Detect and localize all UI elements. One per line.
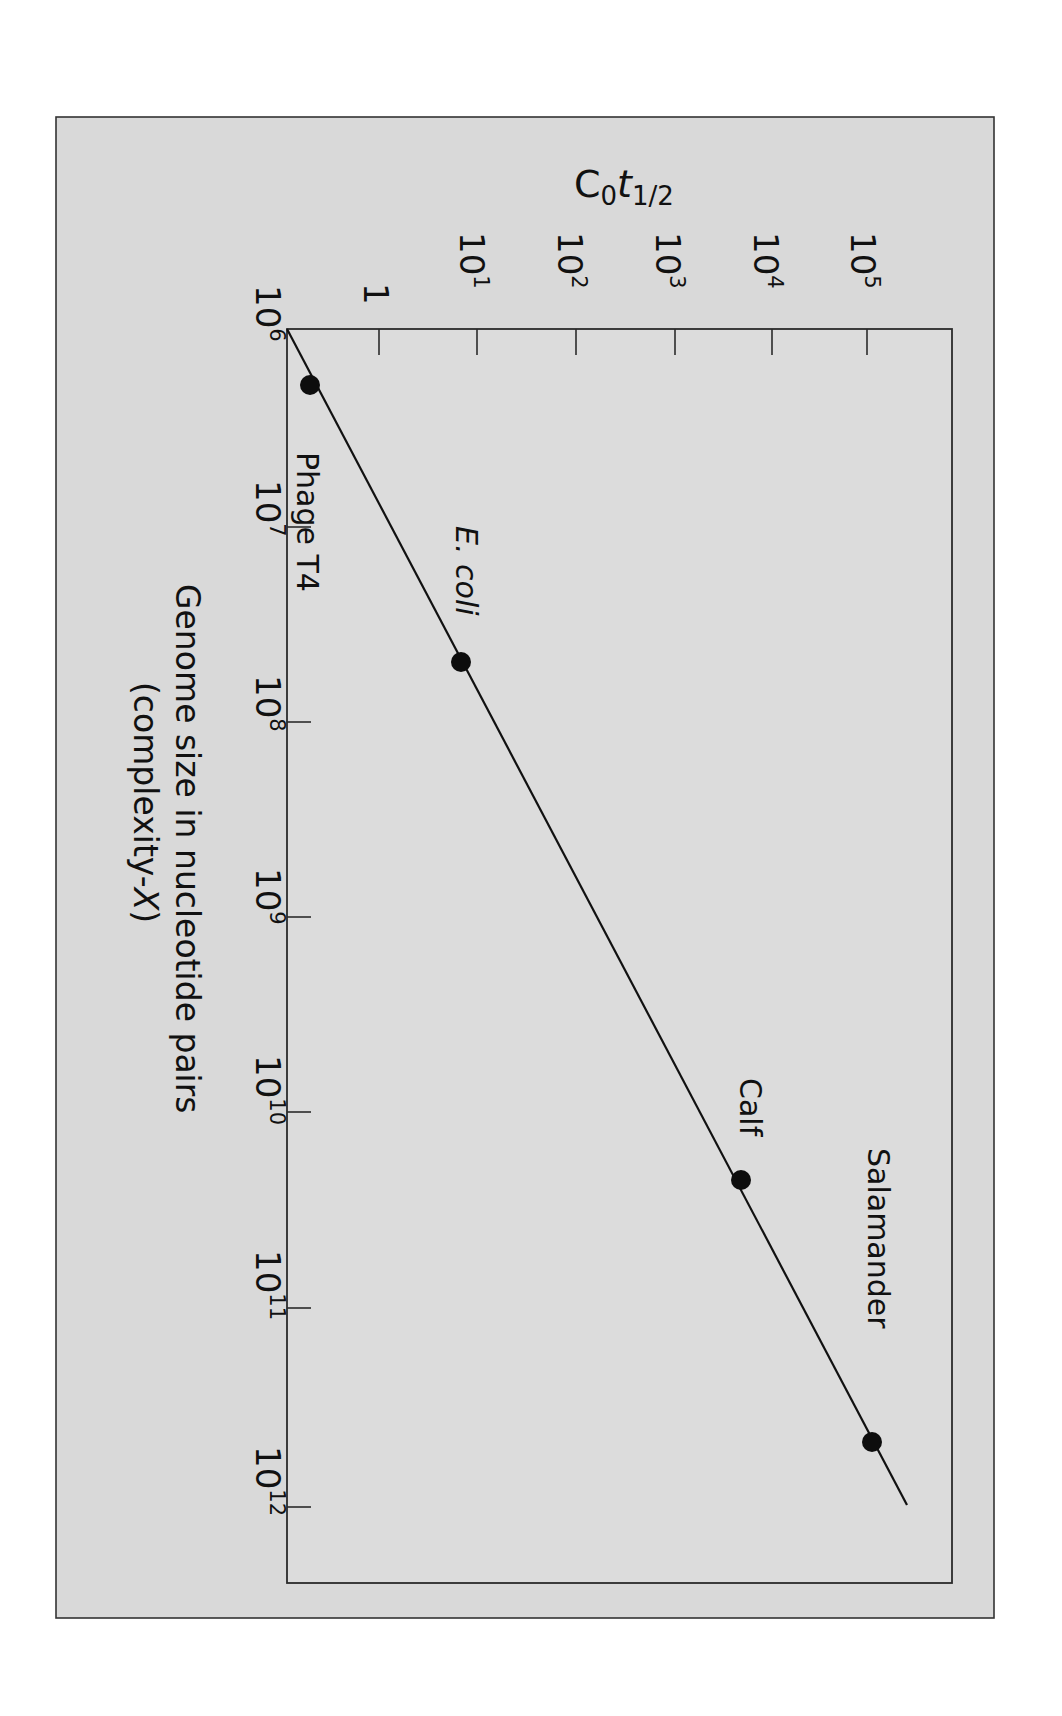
cot-chart: Phage T4 E. coli Calf Salamander 1 101 1… <box>0 0 1062 1716</box>
data-point-calf <box>731 1170 751 1190</box>
x-axis-title-line1: Genome size in nucleotide pairs <box>168 584 207 1114</box>
y-tick-label: 1 <box>356 283 396 305</box>
x-axis-title-line2: (complexity-X) <box>126 682 165 923</box>
point-label-e-coli: E. coli <box>449 526 484 616</box>
data-point-e-coli <box>451 652 471 672</box>
point-label-phage-t4: Phage T4 <box>290 452 325 592</box>
data-point-salamander <box>862 1432 882 1452</box>
data-point-phage-t4 <box>300 375 320 395</box>
point-label-calf: Calf <box>733 1078 768 1138</box>
point-label-salamander: Salamander <box>861 1148 896 1329</box>
